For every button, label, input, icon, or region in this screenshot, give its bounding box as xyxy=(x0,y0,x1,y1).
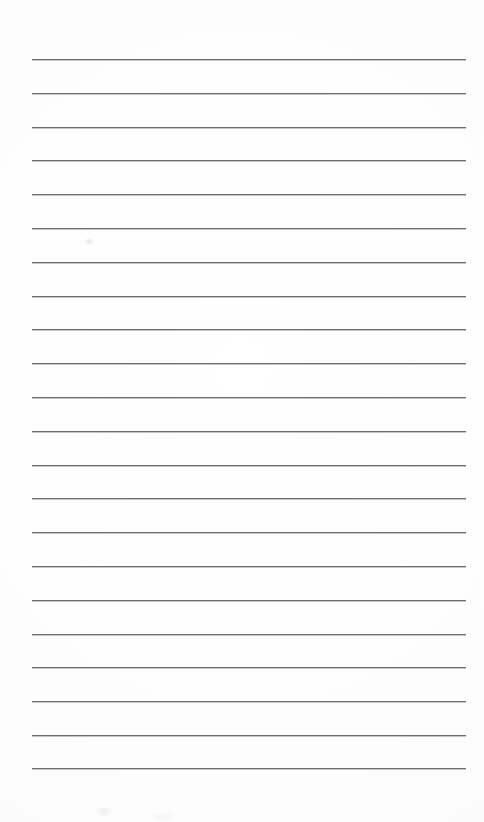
ruled-lines-layer xyxy=(0,0,484,822)
rule-line xyxy=(32,296,466,297)
rule-line xyxy=(32,735,466,736)
rule-line xyxy=(32,465,466,466)
rule-line xyxy=(32,93,466,94)
rule-line xyxy=(32,194,466,195)
rule-line xyxy=(32,228,466,229)
rule-line xyxy=(32,127,466,128)
bottom-margin xyxy=(0,769,484,822)
rule-line xyxy=(32,498,466,499)
rule-line xyxy=(32,59,466,60)
rule-line xyxy=(32,600,466,601)
rule-line xyxy=(32,431,466,432)
rule-line xyxy=(32,397,466,398)
rule-line xyxy=(32,701,466,702)
rule-line xyxy=(32,566,466,567)
lined-paper-page xyxy=(0,0,484,822)
rule-line xyxy=(32,667,466,668)
rule-line xyxy=(32,262,466,263)
rule-line xyxy=(32,532,466,533)
rule-line xyxy=(32,329,466,330)
rule-line xyxy=(32,160,466,161)
rule-line xyxy=(32,363,466,364)
rule-line xyxy=(32,634,466,635)
